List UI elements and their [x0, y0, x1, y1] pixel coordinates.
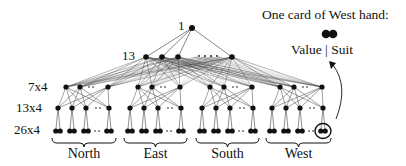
- node-level-13: [127, 105, 132, 110]
- edge: [179, 108, 181, 131]
- level-label-7x4: 7x4: [28, 80, 48, 93]
- node-root: [189, 25, 195, 31]
- edge: [130, 108, 132, 131]
- node-level-26: [253, 128, 258, 133]
- card-suit-icon: [329, 30, 338, 39]
- node-level-26: [202, 128, 207, 133]
- edge: [70, 108, 72, 131]
- node-level-7: [291, 84, 296, 89]
- node-level-26: [86, 128, 91, 133]
- ellipsis-dot: [306, 86, 308, 88]
- ellipsis-dot: [99, 107, 101, 109]
- ellipsis-dot: [302, 86, 304, 88]
- edge: [228, 108, 230, 131]
- node-level-26: [272, 128, 277, 133]
- edge: [214, 108, 216, 131]
- group-label-south: South: [196, 147, 259, 161]
- node-level-7: [149, 84, 154, 89]
- edge: [142, 108, 144, 131]
- edge: [253, 108, 255, 131]
- legend-title: One card of West hand:: [262, 8, 389, 22]
- edge: [321, 108, 323, 131]
- node-level-26: [323, 128, 328, 133]
- ellipsis-dot: [94, 130, 96, 132]
- ellipsis-dot: [204, 55, 206, 57]
- edge: [322, 87, 323, 108]
- edge: [72, 108, 74, 131]
- edge: [220, 57, 294, 87]
- edge: [298, 108, 300, 131]
- level-label-13: 13: [122, 49, 135, 62]
- node-level-26: [109, 128, 114, 133]
- edge: [270, 108, 272, 131]
- network-graph: [0, 0, 406, 166]
- node-level-13: [199, 105, 204, 110]
- edge: [252, 87, 253, 108]
- edge: [107, 108, 109, 131]
- node-level-13: [178, 105, 183, 110]
- node-level-26: [72, 128, 77, 133]
- ellipsis-dot: [98, 130, 100, 132]
- ellipsis-dot: [308, 130, 310, 132]
- edge: [158, 108, 160, 131]
- edge: [181, 108, 183, 131]
- ellipsis-dot: [171, 107, 173, 109]
- edge: [300, 108, 302, 131]
- node-level-26: [230, 128, 235, 133]
- ellipsis-dot: [88, 86, 90, 88]
- edge: [202, 108, 204, 131]
- node-level-13: [83, 105, 88, 110]
- edge: [109, 108, 111, 131]
- legend-caption: Value | Suit: [291, 43, 353, 57]
- level-label-root: 1: [178, 19, 185, 32]
- ellipsis-dot: [232, 86, 234, 88]
- ellipsis-dot: [92, 86, 94, 88]
- node-level-26: [130, 128, 135, 133]
- edge: [144, 87, 152, 108]
- ellipsis-dot: [242, 130, 244, 132]
- ellipsis-dot: [236, 86, 238, 88]
- node-level-13: [213, 105, 218, 110]
- edge: [216, 108, 218, 131]
- edge: [156, 108, 158, 131]
- group-label-west: West: [266, 147, 331, 161]
- edge: [180, 87, 181, 108]
- node-level-7: [177, 84, 182, 89]
- edge: [200, 108, 202, 131]
- node-level-26: [158, 128, 163, 133]
- group-label-east: East: [124, 147, 187, 161]
- ellipsis-dot: [243, 107, 245, 109]
- node-level-13: [250, 105, 255, 110]
- edge: [86, 108, 88, 131]
- node-level-7: [249, 84, 254, 89]
- ellipsis-dot: [216, 55, 218, 57]
- node-level-13: [141, 105, 146, 110]
- edge: [66, 57, 220, 87]
- node-level-13: [55, 105, 60, 110]
- ellipsis-dot: [164, 86, 166, 88]
- node-level-13: [269, 105, 274, 110]
- group-label-north: North: [52, 147, 116, 161]
- node-level-7: [221, 84, 226, 89]
- edge: [284, 108, 286, 131]
- node-level-26: [216, 128, 221, 133]
- arrow-curve: [333, 65, 342, 119]
- edge: [216, 87, 224, 108]
- level-label-26x4: 26x4: [14, 123, 40, 136]
- ellipsis-dot: [313, 107, 315, 109]
- node-level-13: [297, 105, 302, 110]
- edge: [66, 57, 204, 87]
- edge: [272, 108, 274, 131]
- ellipsis-dot: [312, 130, 314, 132]
- node-level-13-top: [143, 54, 149, 60]
- node-level-13: [155, 105, 160, 110]
- edge: [251, 108, 253, 131]
- ellipsis-dot: [309, 107, 311, 109]
- hierarchy-diagram: 1 13 7x4 13x4 26x4 North East South West…: [0, 0, 406, 166]
- node-level-13: [283, 105, 288, 110]
- ellipsis-dot: [170, 130, 172, 132]
- edge: [162, 28, 192, 57]
- edge: [144, 108, 146, 131]
- edge: [192, 28, 232, 57]
- edge: [286, 87, 294, 108]
